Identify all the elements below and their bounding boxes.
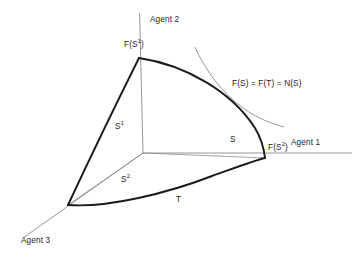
axis-label-agent-2: Agent 2 [150,16,179,24]
region-label-s2-superscript: 2 [127,173,130,179]
point-label-f-s1-base: F(S [124,40,138,49]
point-label-f-s1-close: ) [141,40,144,49]
frontier-curve-12 [139,58,265,158]
agent2-axis-line [140,13,143,153]
region-label-s1: S1 [115,123,124,131]
region-label-t: T [176,196,181,204]
nash-solution-equation-label: F(S) = F(T) = N(S) [232,80,302,88]
region-label-s1-superscript: 1 [121,120,124,126]
point-label-f-s2-close: ) [285,143,288,152]
region-label-s: S [230,136,236,144]
origin-to-agent1-vertex-edge [143,153,265,158]
point-label-f-s1: F(S1) [124,41,144,49]
region-label-s2: S2 [121,176,130,184]
axis-label-agent-1: Agent 1 [291,139,320,147]
frontier-curve-23 [68,158,265,205]
axis-label-agent-3: Agent 3 [21,237,50,245]
axis-group [23,13,352,238]
point-label-f-s2: F(S2) [268,144,288,152]
diagram-canvas [0,0,362,262]
point-label-f-s2-base: F(S [268,143,282,152]
inner-edge-group [68,153,265,205]
bargaining-diagram-figure: Agent 2 Agent 1 Agent 3 F(S1) F(S2) F(S)… [0,0,362,262]
